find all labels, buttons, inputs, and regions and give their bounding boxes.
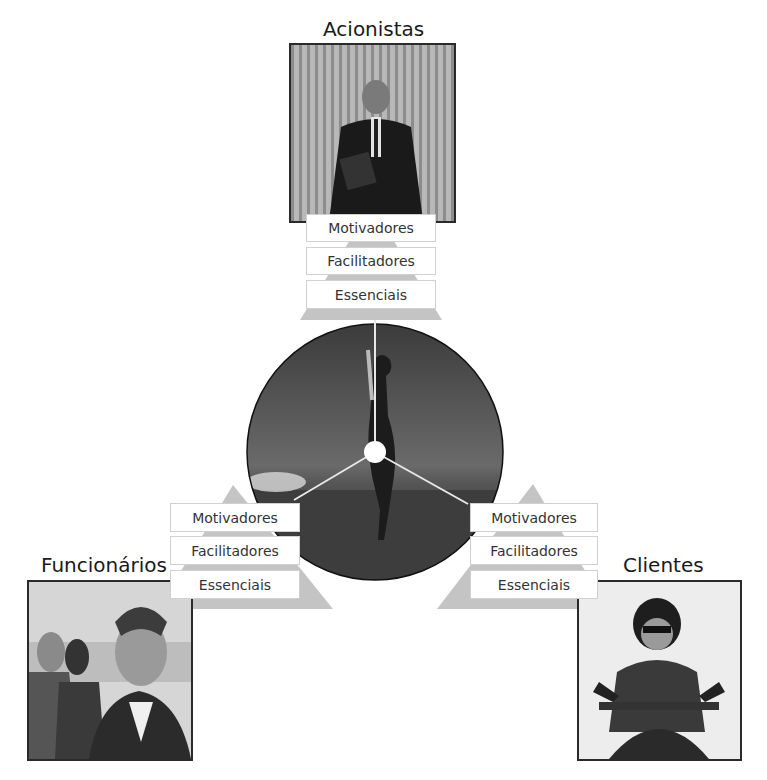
- clientes-facilitadores: Facilitadores: [470, 536, 598, 565]
- funcionarios-essenciais: Essenciais: [170, 570, 300, 599]
- center-hub: [364, 441, 386, 463]
- clientes-title: Clientes: [623, 553, 704, 577]
- acionistas-essenciais: Essenciais: [306, 280, 436, 309]
- funcionarios-title: Funcionários: [41, 553, 167, 577]
- acionistas-motivadores: Motivadores: [306, 214, 436, 242]
- clientes-motivadores: Motivadores: [470, 503, 598, 532]
- clientes-essenciais: Essenciais: [470, 570, 598, 599]
- acionistas-title: Acionistas: [323, 17, 424, 41]
- acionistas-facilitadores: Facilitadores: [306, 247, 436, 275]
- employee-photo-icon: [27, 580, 193, 761]
- customer-photo-icon: [577, 580, 742, 761]
- funcionarios-motivadores: Motivadores: [170, 503, 300, 532]
- businessman-photo-icon: [289, 43, 456, 223]
- funcionarios-facilitadores: Facilitadores: [170, 536, 300, 565]
